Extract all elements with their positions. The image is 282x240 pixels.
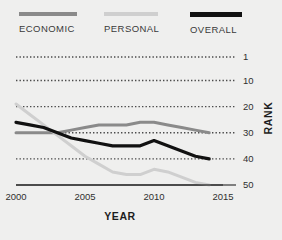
series-group <box>16 104 209 185</box>
y-tick-40: 40 <box>243 153 254 164</box>
y-tick-30: 30 <box>243 127 254 138</box>
legend-swatch-personal <box>104 12 158 16</box>
legend-label-personal: PERSONAL <box>104 23 159 34</box>
legend-label-economic: ECONOMIC <box>19 23 77 34</box>
x-tick-2015: 2015 <box>212 191 233 202</box>
x-axis-title: YEAR <box>104 210 136 222</box>
chart-svg: 11020304050 2000200520102015 RANK YEAR <box>0 42 282 240</box>
rank-line-chart: ECONOMIC PERSONAL OVERALL 11020304050 20… <box>0 0 282 240</box>
y-tick-50: 50 <box>243 179 254 190</box>
legend-item-economic[interactable]: ECONOMIC <box>19 12 77 34</box>
legend-swatch-overall <box>190 12 242 17</box>
x-tick-2005: 2005 <box>74 191 95 202</box>
legend-item-overall[interactable]: OVERALL <box>190 12 242 35</box>
chart-legend: ECONOMIC PERSONAL OVERALL <box>0 0 282 42</box>
legend-label-overall: OVERALL <box>190 24 242 35</box>
y-tick-10: 10 <box>243 75 254 86</box>
y-tick-1: 1 <box>243 51 248 62</box>
legend-swatch-economic <box>19 12 77 16</box>
y-axis-title: RANK <box>262 102 274 135</box>
plot-area: 11020304050 2000200520102015 RANK YEAR <box>0 42 282 240</box>
legend-item-personal[interactable]: PERSONAL <box>104 12 159 34</box>
gridlines-group <box>16 57 236 185</box>
x-tick-labels: 2000200520102015 <box>5 191 233 202</box>
y-tick-20: 20 <box>243 101 254 112</box>
x-tick-2010: 2010 <box>143 191 164 202</box>
x-tick-2000: 2000 <box>5 191 26 202</box>
y-tick-labels: 11020304050 <box>243 51 254 190</box>
